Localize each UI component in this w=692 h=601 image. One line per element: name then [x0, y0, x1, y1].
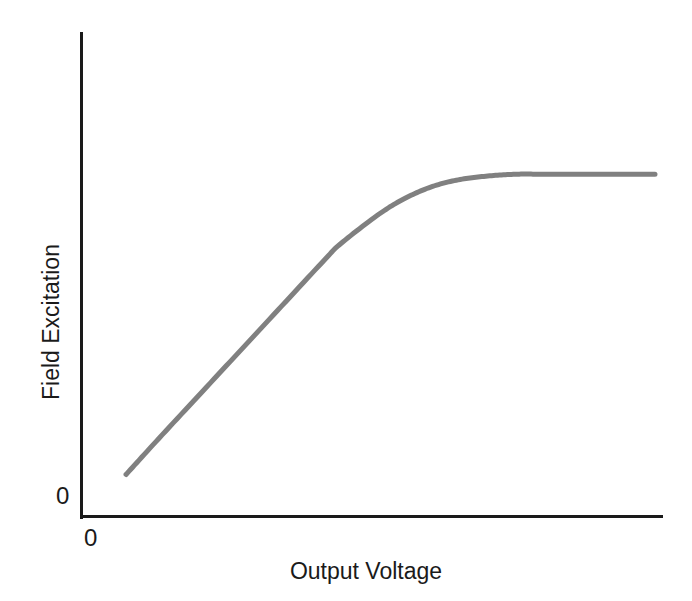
plot-area: [0, 0, 692, 601]
y-axis-origin-tick-label: 0: [56, 484, 69, 508]
x-axis-title: Output Voltage: [0, 560, 692, 583]
x-axis-origin-tick-label: 0: [84, 526, 97, 550]
y-axis-title: Field Excitation: [40, 244, 63, 400]
data-series-line: [126, 174, 655, 474]
chart-figure: 0 0 Field Excitation Output Voltage: [0, 0, 692, 601]
